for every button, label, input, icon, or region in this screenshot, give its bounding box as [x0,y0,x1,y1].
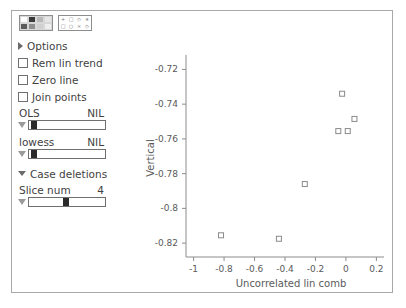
triangle-down-icon[interactable] [18,122,26,128]
data-point[interactable] [276,236,281,241]
data-point[interactable] [336,129,341,134]
y-tick-label: -0.74 [155,99,179,109]
slider-lowess-value: NIL [87,136,104,148]
checkbox-rem-lin-trend[interactable]: Rem lin trend [17,54,117,71]
y-axis-title: Vertical [145,139,156,176]
slider-ols-header: OLS NIL [18,107,106,120]
options-disclosure[interactable]: Options [17,37,117,54]
x-axis-title: Uncorrelated lin comb [236,278,347,287]
x-tick-label: -0.4 [276,264,294,274]
x-tick-label: -0.6 [246,264,264,274]
slider-lowess-header: lowess NIL [18,136,106,149]
case-deletions-disclosure[interactable]: Case deletions [17,165,117,182]
y-tick-label: -0.78 [155,169,179,179]
slider-ols-track[interactable] [28,120,106,130]
y-tick-label: -0.8 [160,203,178,213]
slider-slice-header: Slice num 4 [18,184,106,197]
triangle-down-icon[interactable] [18,199,26,205]
slider-slice-thumb[interactable] [63,198,69,206]
slider-ols-row [18,120,106,130]
slider-slice-name: Slice num [19,184,71,196]
slider-slice-num: Slice num 4 [18,184,106,207]
slider-slice-value: 4 [97,184,104,196]
x-tick-label: 0 [343,264,349,274]
checkbox-join-points[interactable]: Join points [17,88,117,105]
data-point[interactable] [352,116,357,121]
slider-slice-row [18,197,106,207]
checkbox-icon[interactable] [18,92,28,102]
triangle-down-icon [18,171,26,176]
checkbox-icon[interactable] [18,58,28,68]
y-tick-label: -0.76 [155,134,179,144]
x-axis-ticks: -1-0.8-0.6-0.4-0.200.2 [189,257,383,274]
slider-ols-value: NIL [87,107,104,119]
control-panel: +□◇∗ □○×◇ Options Rem lin trend Zero lin… [17,15,117,213]
x-tick-label: -1 [189,264,198,274]
checkbox-label: Zero line [32,74,78,86]
slider-slice-track[interactable] [28,197,106,207]
triangle-right-icon [18,42,23,50]
plot-canvas[interactable]: -0.72-0.74-0.76-0.78-0.8-0.82 -1-0.8-0.6… [142,29,387,287]
glyph-picker-icon[interactable]: +□◇∗ □○×◇ [58,15,92,31]
checkbox-icon[interactable] [18,75,28,85]
checkbox-label: Join points [32,91,87,103]
application-window: +□◇∗ □○×◇ Options Rem lin trend Zero lin… [11,10,393,293]
x-tick-label: -0.2 [307,264,325,274]
x-tick-label: -0.8 [215,264,233,274]
slider-lowess: lowess NIL [18,136,106,159]
slider-lowess-thumb[interactable] [31,150,37,158]
slider-lowess-name: lowess [19,136,54,148]
slider-ols: OLS NIL [18,107,106,130]
data-point[interactable] [302,182,307,187]
y-tick-label: -0.72 [155,64,178,74]
data-point[interactable] [345,129,350,134]
checkbox-zero-line[interactable]: Zero line [17,71,117,88]
y-axis-ticks: -0.72-0.74-0.76-0.78-0.8-0.82 [155,64,186,248]
checkbox-label: Rem lin trend [32,57,103,69]
case-deletions-label: Case deletions [30,168,107,180]
slider-ols-name: OLS [19,107,40,119]
palette-icon[interactable] [19,15,53,31]
toolbar-icon-row: +□◇∗ □○×◇ [19,15,117,31]
data-point[interactable] [340,91,345,96]
slider-lowess-row [18,149,106,159]
slider-ols-thumb[interactable] [31,121,37,129]
options-label: Options [27,40,68,52]
x-tick-label: 0.2 [369,264,383,274]
triangle-down-icon[interactable] [18,151,26,157]
scatter-plot: -0.72-0.74-0.76-0.78-0.8-0.82 -1-0.8-0.6… [142,29,387,287]
data-point-group[interactable] [219,91,357,241]
data-point[interactable] [219,233,224,238]
slider-lowess-track[interactable] [28,149,106,159]
y-tick-label: -0.82 [155,238,178,248]
